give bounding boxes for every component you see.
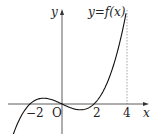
tick-label-2: 2 — [93, 106, 101, 120]
tick-label-neg2: −2 — [26, 106, 44, 120]
y-axis-arrow-icon — [60, 9, 64, 15]
function-label: y=f(x) — [87, 5, 126, 19]
x-axis-label: x — [143, 106, 150, 120]
tick-label-4: 4 — [123, 106, 131, 120]
function-graph: y y=f(x) x O −2 2 4 — [0, 0, 154, 134]
origin-label: O — [52, 106, 62, 120]
y-axis-label: y — [50, 5, 58, 19]
